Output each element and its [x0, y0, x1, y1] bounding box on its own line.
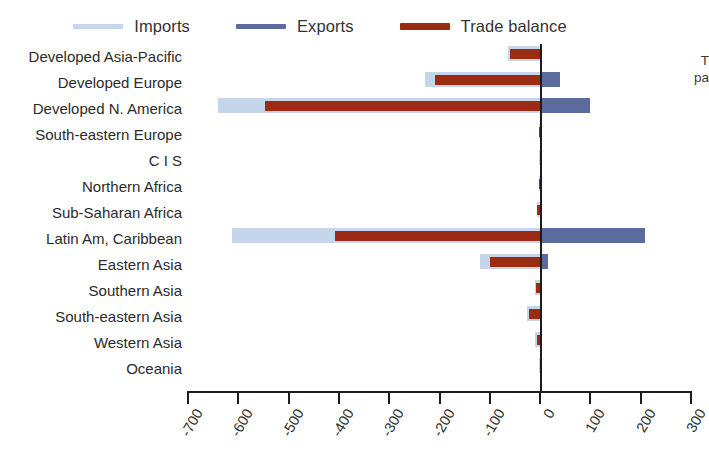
- bar-group: [188, 226, 691, 252]
- y-axis-label: Oceania: [0, 356, 182, 382]
- bar-group: [188, 122, 691, 148]
- x-tick-mark: [489, 391, 491, 404]
- x-tick-mark: [237, 391, 239, 404]
- x-tick-mark: [690, 391, 692, 404]
- legend-item-imports: Imports: [73, 17, 190, 36]
- x-axis-ticks: -700-600-500-400-300-200-1000100200300: [188, 391, 691, 458]
- x-tick-mark: [338, 391, 340, 404]
- x-tick-mark: [439, 391, 441, 404]
- bar-trade-balance: [510, 49, 540, 59]
- bar-group: [188, 278, 691, 304]
- legend-swatch-trade-balance: [400, 23, 450, 30]
- legend-swatch-exports: [236, 24, 286, 29]
- y-axis-label: Northern Africa: [0, 174, 182, 200]
- y-axis-label: South-eastern Asia: [0, 304, 182, 330]
- bar-group: [188, 356, 691, 382]
- x-tick-label: 200: [623, 406, 659, 452]
- y-axis-label: Eastern Asia: [0, 252, 182, 278]
- x-tick-mark: [539, 391, 541, 404]
- x-tick-label: -700: [170, 406, 206, 452]
- zero-axis-line: [540, 44, 542, 391]
- bar-trade-balance: [265, 101, 540, 111]
- x-tick-label: -100: [472, 406, 508, 452]
- y-axis-category-labels: Developed Asia-PacificDeveloped EuropeDe…: [0, 44, 182, 391]
- bar-group: [188, 174, 691, 200]
- bar-group: [188, 330, 691, 356]
- legend-item-exports: Exports: [236, 17, 354, 36]
- bar-group: [188, 200, 691, 226]
- x-tick-mark: [288, 391, 290, 404]
- y-axis-label: Developed Europe: [0, 70, 182, 96]
- x-tick-label: -500: [271, 406, 307, 452]
- legend-label-imports: Imports: [134, 17, 190, 36]
- x-tick-label: 300: [673, 406, 709, 452]
- x-tick-mark: [589, 391, 591, 404]
- legend-swatch-imports: [73, 24, 123, 29]
- bar-exports: [540, 72, 560, 87]
- bar-trade-balance: [529, 309, 540, 319]
- bar-exports: [540, 98, 590, 113]
- bar-group: [188, 44, 691, 70]
- right-note-line-2: pa: [640, 69, 709, 86]
- x-tick-label: -300: [371, 406, 407, 452]
- y-axis-label: C I S: [0, 148, 182, 174]
- x-tick-mark: [640, 391, 642, 404]
- legend-label-exports: Exports: [297, 17, 354, 36]
- y-axis-label: Developed N. America: [0, 96, 182, 122]
- x-tick-label: -400: [321, 406, 357, 452]
- bar-trade-balance: [435, 75, 540, 85]
- x-tick-label: 0: [522, 406, 558, 452]
- legend-item-trade-balance: Trade balance: [400, 17, 567, 36]
- bar-group: [188, 70, 691, 96]
- x-tick-label: -200: [422, 406, 458, 452]
- bar-group: [188, 304, 691, 330]
- chart-legend: Imports Exports Trade balance: [0, 14, 640, 38]
- x-tick-mark: [187, 391, 189, 404]
- bar-group: [188, 252, 691, 278]
- top-caption-fragment: [0, 0, 709, 5]
- y-axis-label: Western Asia: [0, 330, 182, 356]
- right-note-fragment: T pa: [640, 52, 709, 86]
- bar-group: [188, 96, 691, 122]
- right-note-line-1: T: [640, 52, 709, 69]
- chart-plot-area: [188, 44, 691, 391]
- y-axis-label: Sub-Saharan Africa: [0, 200, 182, 226]
- y-axis-label: South-eastern Europe: [0, 122, 182, 148]
- y-axis-label: Developed Asia-Pacific: [0, 44, 182, 70]
- bar-exports: [540, 228, 645, 243]
- y-axis-label: Southern Asia: [0, 278, 182, 304]
- legend-label-trade-balance: Trade balance: [461, 17, 567, 36]
- x-tick-label: -600: [220, 406, 256, 452]
- x-tick-label: 100: [572, 406, 608, 452]
- bar-group: [188, 148, 691, 174]
- bar-trade-balance: [490, 257, 540, 267]
- y-axis-label: Latin Am, Caribbean: [0, 226, 182, 252]
- bar-trade-balance: [335, 231, 540, 241]
- x-tick-mark: [388, 391, 390, 404]
